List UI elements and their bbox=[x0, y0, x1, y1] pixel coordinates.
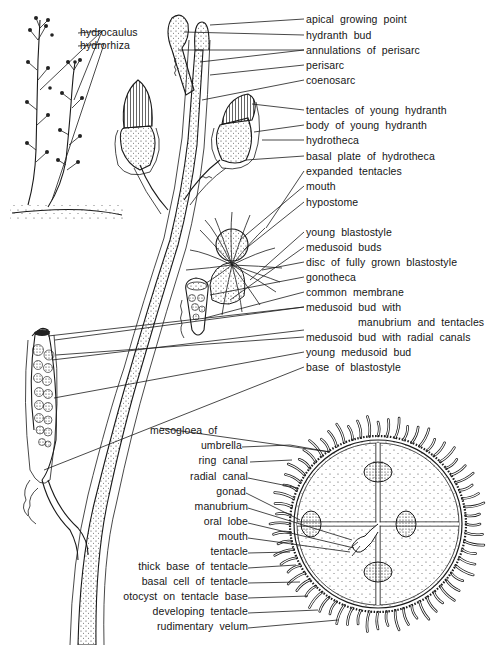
medusa bbox=[270, 417, 484, 632]
label-manubrium: manubrium bbox=[195, 500, 248, 512]
label-tentacle: tentacle bbox=[210, 545, 248, 557]
label-coenosarc: coenosarc bbox=[306, 74, 355, 86]
label-disc-of-fully-grown-blastostyle: disc of fully grown blastostyle bbox=[306, 256, 457, 268]
label-mouth: mouth bbox=[306, 180, 336, 192]
label-young-blastostyle: young blastostyle bbox=[306, 226, 392, 238]
label-radial-canal: radial canal bbox=[190, 470, 248, 482]
label-perisarc: perisarc bbox=[306, 59, 344, 71]
label-base-of-blastostyle: base of blastostyle bbox=[306, 361, 401, 373]
label-medusoid-bud-with-radial-canals: medusoid bud with radial canals bbox=[306, 331, 471, 343]
label-gonad: gonad bbox=[216, 485, 246, 497]
label-otocyst-on-tentacle-base: otocyst on tentacle base bbox=[123, 590, 248, 602]
label-hypostome: hypostome bbox=[306, 196, 358, 208]
label-tentacles-of-young-hydranth: tentacles of young hydranth bbox=[306, 104, 447, 116]
label-young-medusoid-bud: young medusoid bud bbox=[306, 346, 411, 358]
label-basal-plate-of-hydrotheca: basal plate of hydrotheca bbox=[306, 150, 435, 162]
label-mesogloea-of: mesogloea of bbox=[150, 424, 217, 436]
label-umbrella: umbrella bbox=[201, 439, 242, 451]
label-gonotheca: gonotheca bbox=[306, 271, 356, 283]
label-ring-canal: ring canal bbox=[198, 454, 248, 466]
label-medusoid-buds: medusoid buds bbox=[306, 241, 382, 253]
label-common-membrane: common membrane bbox=[306, 286, 404, 298]
label-body-of-young-hydranth: body of young hydranth bbox=[306, 119, 427, 131]
label-annulations-of-perisarc: annulations of perisarc bbox=[306, 44, 420, 56]
label-rudimentary-velum: rudimentary velum bbox=[157, 620, 248, 632]
label-developing-tentacle: developing tentacle bbox=[153, 605, 248, 617]
label-hydranth-bud: hydranth bud bbox=[306, 29, 372, 41]
label-manubrium-and-tentacles: manubrium and tentacles bbox=[358, 316, 484, 328]
label-hydrotheca: hydrotheca bbox=[306, 134, 359, 146]
label-apical-growing-point: apical growing point bbox=[306, 13, 407, 25]
label-oral-lobe: oral lobe bbox=[204, 515, 248, 527]
label-thick-base-of-tentacle: thick base of tentacle bbox=[138, 560, 248, 572]
label-basal-cell-of-tentacle: basal cell of tentacle bbox=[142, 575, 248, 587]
label-medusoid-bud-with: medusoid bud with bbox=[306, 301, 401, 313]
label-hydrocaulus: hydrocaulus bbox=[80, 26, 138, 38]
label-hydrorhiza: hydrorhiza bbox=[80, 39, 130, 51]
label-mouth-medusa: mouth bbox=[218, 530, 248, 542]
label-expanded-tentacles: expanded tentacles bbox=[306, 165, 402, 177]
